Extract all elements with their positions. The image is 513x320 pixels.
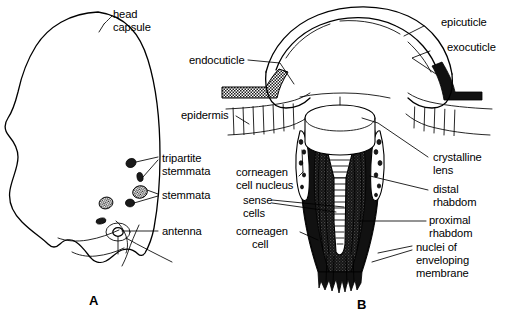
label-epicuticle: epicuticle <box>441 16 487 28</box>
figure-root: head capsule tripartite stemmata stemmat… <box>0 0 513 320</box>
stemma-spot <box>125 199 134 207</box>
label-corneagen-cell-nucleus: corneagen cell nucleus <box>236 166 294 191</box>
panel-a-letter: A <box>89 293 99 308</box>
anatomy-figure: head capsule tripartite stemmata stemmat… <box>0 0 513 320</box>
label-epidermis: epidermis <box>181 109 229 121</box>
label-exocuticle: exocuticle <box>447 41 496 53</box>
proximal-rhabdom <box>334 178 346 255</box>
crystalline-lens <box>305 105 375 155</box>
label-proximal-rhabdom: proximal rhabdom <box>429 214 474 239</box>
label-antenna: antenna <box>162 225 203 237</box>
label-tripartite-stemmata: tripartite stemmata <box>162 152 211 177</box>
label-stemmata: stemmata <box>162 189 211 201</box>
panel-b-letter: B <box>357 297 367 312</box>
label-endocuticle: endocuticle <box>189 54 245 66</box>
